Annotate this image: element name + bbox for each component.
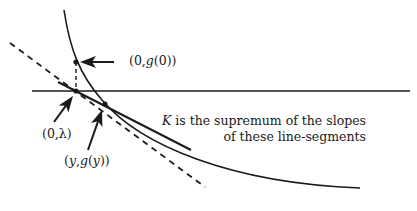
point-g0: [73, 59, 78, 64]
label-point-y-gy: (y,g(y)): [64, 155, 110, 168]
arrow-to-lambda-shaft: [54, 106, 66, 122]
label-point-0-g0: (0,g(0)): [129, 55, 176, 68]
diagram-canvas: (0,g(0)) (0,λ) (y,g(y)) K is the supremu…: [0, 0, 417, 211]
arrow-to-y-shaft: [88, 121, 98, 150]
label-point-0-lambda: (0,λ): [42, 128, 72, 141]
arrow-to-lambda-head-icon: [59, 96, 73, 112]
caption-line-2: of these line-segments: [162, 129, 366, 145]
point-y: [102, 101, 107, 106]
caption-text: K is the supremum of the slopes of these…: [162, 113, 366, 145]
point-lambda: [73, 88, 78, 93]
diagram-svg: [0, 0, 417, 211]
caption-line-1: K is the supremum of the slopes: [162, 113, 366, 129]
